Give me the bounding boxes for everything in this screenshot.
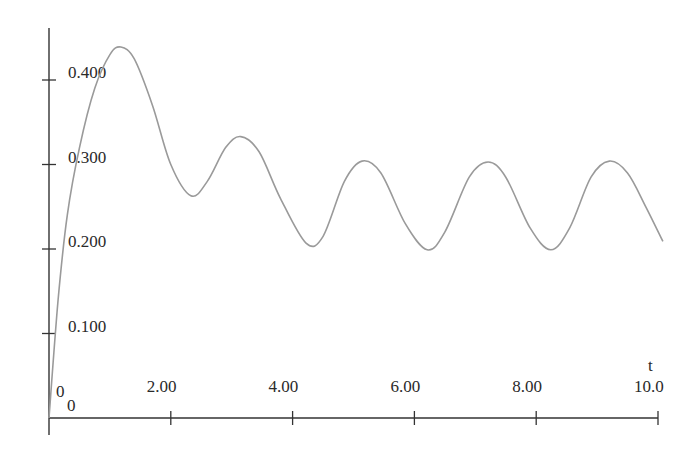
y-origin-label: 0: [67, 396, 76, 415]
x-tick-label: 6.00: [390, 377, 420, 396]
y-tick-label: 0.200: [68, 232, 106, 251]
y-tick-label: 0.100: [68, 317, 106, 336]
x-axis-label: t: [648, 356, 653, 375]
x-tick-label: 8.00: [512, 377, 542, 396]
line-chart: 0.1000.2000.3000.400 2.004.006.008.0010.…: [0, 0, 692, 451]
x-tick-label: 2.00: [147, 377, 177, 396]
x-tick-label: 10.0: [634, 377, 664, 396]
y-tick-label: 0.300: [68, 148, 106, 167]
y-ticks: 0.1000.2000.3000.400: [42, 63, 106, 336]
axes: [49, 28, 658, 435]
data-curve: [49, 47, 663, 418]
x-tick-label: 4.00: [269, 377, 299, 396]
x-origin-label: 0: [56, 382, 65, 401]
